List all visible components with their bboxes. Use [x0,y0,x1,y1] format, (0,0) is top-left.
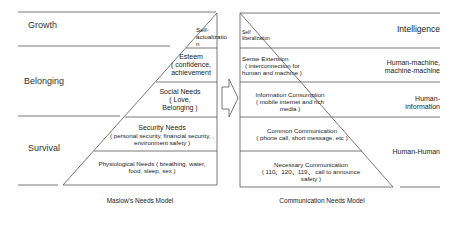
band-human-information: Human- information [370,95,440,111]
level-line: Belonging ) [150,104,210,112]
level-line: achievement [164,69,218,77]
level-line: n [196,40,232,47]
level-necessary-communication: Necessary Communication ( 110、120、119、 c… [246,161,376,182]
level-line: ( confidence, [164,61,218,69]
level-line: ( Love, [150,96,210,104]
level-line: ( interconnection for [242,62,302,69]
level-line: media ) [244,105,336,112]
left-caption: Maslow's Needs Model [90,197,190,204]
level-line: safety ) [246,175,376,182]
level-social-needs: Social Needs ( Love, Belonging ) [150,88,210,112]
band-human-machine: Human-machine, machine-machine [360,59,440,75]
right-caption: Communication Needs Model [262,197,382,204]
level-title: Social Needs [150,88,210,96]
band-growth: Growth [28,20,57,30]
level-title: Sense Extension [242,55,302,62]
band-belonging: Belonging [24,76,64,86]
level-line: ( phone call, short message, etc ) [244,134,360,141]
level-sense-extension: Sense Extension ( interconnection for hu… [242,55,302,76]
level-self-liberalization: Self liberalization [242,30,270,42]
level-security-needs: Security Needs ( personal security, fina… [104,124,220,146]
level-esteem: Esteem ( confidence, achievement [164,53,218,77]
level-line: food, sleep, sex ) [90,167,214,174]
band-label: Intelligence [370,25,440,35]
level-title: Security Needs [104,124,220,132]
level-line: environment safety ) [104,139,220,146]
level-title: Necessary Communication [246,161,376,168]
level-title: Physiological Needs ( breathing, water, [90,160,214,167]
hollow-arrow-right-icon [222,79,238,117]
level-line: actualizatio [196,33,232,40]
band-human-human: Human-Human [370,148,440,156]
level-line: ( 110、120、119、 call to announce [246,168,376,175]
level-title: Information Consumption [244,91,336,98]
band-intelligence: Intelligence [370,25,440,35]
band-label: Human-machine, [360,59,440,67]
band-label: Human-Human [370,148,440,156]
level-line: liberalization [242,36,270,42]
band-label: Human- [370,95,440,103]
level-title: Common Communication [244,127,360,134]
level-title: Self- [196,26,232,33]
band-survival: Survival [28,143,60,153]
level-line: human and machine ) [242,69,302,76]
level-line: ( personal security, financial security,… [104,132,220,139]
level-common-communication: Common Communication ( phone call, short… [244,127,360,141]
level-self-actualization: Self- actualizatio n [196,26,232,47]
level-physiological-needs: Physiological Needs ( breathing, water, … [90,160,214,174]
band-label: machine-machine [360,67,440,75]
band-label: information [370,103,440,111]
level-line: ( mobile internet and rich [244,98,336,105]
level-information-consumption: Information Consumption ( mobile interne… [244,91,336,112]
level-title: Esteem [164,53,218,61]
